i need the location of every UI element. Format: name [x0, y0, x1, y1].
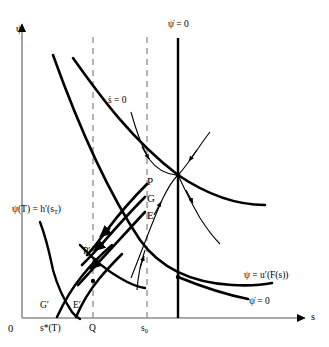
tick-label-s0: s0 [141, 324, 148, 334]
origin-label: 0 [8, 324, 13, 335]
saddle-point-marker [176, 173, 181, 178]
s-dot-zero-curve [73, 58, 265, 205]
thin-arm-upper-left [131, 112, 176, 175]
point-label-G-prime: G′ [40, 301, 49, 311]
tick-label-s0-sub: 0 [145, 327, 148, 334]
label-psi-T: ψ(T) = h′(sT) [12, 205, 61, 215]
thin-arm-upper-right-arrow [189, 150, 197, 161]
point-label-G: G [147, 193, 155, 204]
lower-intersection-marker [176, 275, 180, 279]
thin-arm-lower-left-arrow [154, 202, 161, 215]
y-axis-label: ψ [16, 24, 23, 35]
x-axis-label: s [311, 312, 315, 323]
psi-dot-zero-lower-branch [178, 277, 248, 299]
phase-diagram-figure: ψ s 0 s*(T) Q s0 ψ̇ = 0 ṡ = 0 ψ(T) = h′… [0, 0, 329, 347]
thin-arm-lower-right-arrow [186, 190, 193, 203]
label-s-dot-zero: ṡ = 0 [108, 96, 127, 106]
label-psi-T-text: ψ(T) = h′(s [12, 204, 54, 214]
Q-intersection-marker [91, 279, 95, 283]
point-label-E: E [147, 210, 154, 221]
label-psi-u-F: ψ = u′(F(s)) [244, 271, 289, 281]
thin-arm-s0-arrow [140, 256, 144, 268]
label-psi-dot-zero-top: ψ̇ = 0 [168, 20, 189, 30]
point-label-P-prime: P′ [83, 247, 90, 257]
label-psi-dot-zero-bottom: ψ̇ = 0 [249, 297, 270, 307]
diagram-canvas [0, 0, 329, 347]
tick-label-s-star-T: s*(T) [40, 324, 61, 334]
thin-arm-lower-right [178, 175, 220, 244]
tick-label-Q: Q [89, 324, 96, 334]
point-label-P: P [147, 176, 153, 187]
label-psi-T-tail: ) [58, 204, 61, 214]
point-label-E-prime: E′ [73, 301, 81, 311]
